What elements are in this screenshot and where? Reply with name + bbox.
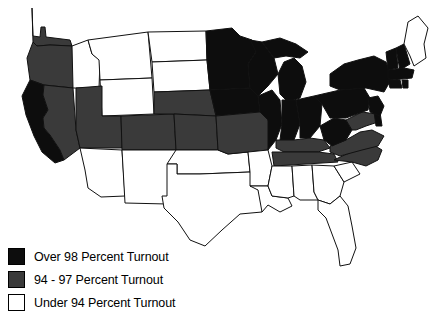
state-WY (100, 78, 154, 116)
state-KS (174, 114, 218, 150)
legend-swatch-under-94 (8, 294, 25, 311)
state-FL (318, 196, 356, 266)
legend-item-under-94: Under 94 Percent Turnout (8, 291, 223, 314)
legend-swatch-94-97 (8, 271, 25, 288)
state-RI (402, 80, 408, 88)
state-WA (32, 8, 72, 46)
state-CT (388, 80, 402, 88)
state-NY (330, 56, 392, 92)
state-CO (121, 114, 176, 150)
state-KY (276, 138, 330, 152)
turnout-map-figure: Over 98 Percent Turnout 94 - 97 Percent … (0, 0, 431, 326)
legend-label-94-97: 94 - 97 Percent Turnout (34, 273, 163, 287)
state-IA (210, 88, 260, 116)
state-NE (154, 90, 216, 116)
state-TN (272, 152, 338, 166)
state-MS (268, 166, 294, 198)
state-MN (206, 28, 256, 90)
legend-label-over-98: Over 98 Percent Turnout (34, 250, 169, 264)
state-SD (152, 60, 210, 92)
legend: Over 98 Percent Turnout 94 - 97 Percent … (8, 245, 223, 314)
state-MI (278, 58, 306, 102)
legend-item-over-98: Over 98 Percent Turnout (8, 245, 223, 268)
state-MO (216, 112, 272, 154)
state-OK (167, 150, 250, 174)
state-MA (388, 68, 414, 80)
legend-label-under-94: Under 94 Percent Turnout (34, 296, 175, 310)
legend-swatch-over-98 (8, 248, 25, 265)
legend-item-94-97: 94 - 97 Percent Turnout (8, 268, 223, 291)
state-AZ (80, 148, 125, 197)
state-OH (296, 96, 322, 138)
state-ND (148, 31, 207, 62)
state-AR (248, 150, 272, 186)
